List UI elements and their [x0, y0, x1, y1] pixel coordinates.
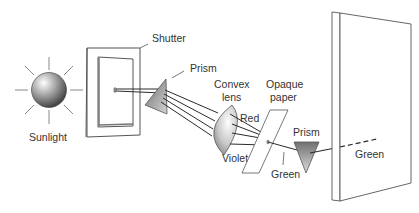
prism-2-label: Prism: [293, 126, 320, 138]
green-screen-label: Green: [355, 148, 384, 160]
opaque-paper-label-line2: paper: [270, 91, 297, 103]
convex-lens-label-line2: lens: [222, 91, 241, 103]
prism-1-leader-line: [172, 71, 184, 78]
red-label: Red: [240, 112, 259, 124]
convex-lens-label-line1: Convex: [214, 78, 250, 90]
shutter-label: Shutter: [152, 32, 186, 44]
green-slit-label: Green: [271, 168, 300, 180]
opaque-paper-label-line1: Opaque: [266, 78, 304, 90]
prism-1: [145, 79, 167, 114]
shutter-leader-line: [140, 44, 148, 48]
prism-1-label: Prism: [190, 62, 217, 74]
shutter-hole: [114, 88, 116, 93]
sunlight-label: Sunlight: [29, 131, 67, 143]
screen: [332, 12, 411, 201]
violet-label: Violet: [222, 152, 248, 164]
shutter: [86, 48, 140, 137]
sun-icon: [15, 57, 83, 124]
green-slit-leader-line: [283, 152, 284, 165]
prism-experiment-diagram: Sunlight Shutter Prism Convex lens Red V…: [0, 0, 419, 213]
dispersed-rays: [161, 90, 218, 136]
